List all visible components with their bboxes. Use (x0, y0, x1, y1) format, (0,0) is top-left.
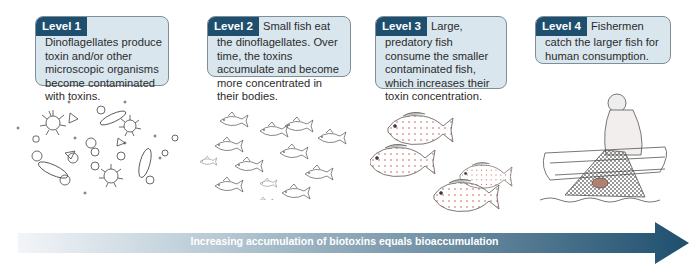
level-2-card: Level 2Small fish eat the dinoflagellate… (207, 16, 351, 77)
level-1-card: Level 1Dinoflagellates produce toxin and… (35, 16, 169, 86)
fisherman-illustration (535, 85, 685, 215)
level-3-card: Level 3Large, predatory fish consume the… (375, 16, 507, 89)
microorganisms-illustration (15, 98, 185, 198)
level-4-tag: Level 4 (536, 17, 587, 36)
level-2-tag: Level 2 (208, 17, 259, 36)
arrow-label: Increasing accumulation of biotoxins equ… (0, 235, 689, 247)
level-3-tag: Level 3 (376, 17, 427, 36)
level-4-card: Level 4Fishermen catch the larger fish f… (535, 16, 671, 64)
level-1-text: Dinoflagellates produce toxin and/or oth… (45, 36, 162, 102)
level-1-tag: Level 1 (36, 17, 87, 36)
large-fish-illustration (370, 105, 520, 215)
dinoflagellate-spiky-icon (40, 110, 66, 135)
small-fish-illustration (200, 100, 360, 200)
